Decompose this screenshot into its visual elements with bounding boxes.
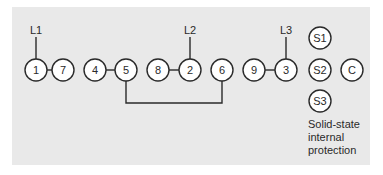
lead-label-l2: L2 xyxy=(184,24,196,36)
terminal-3: 3 xyxy=(275,59,297,81)
svg-text:3: 3 xyxy=(283,64,289,76)
svg-text:8: 8 xyxy=(155,64,161,76)
svg-text:S3: S3 xyxy=(313,95,326,107)
note-line-3: protection xyxy=(308,144,360,157)
lead-label-l3: L3 xyxy=(280,24,292,36)
terminal-s1: S1 xyxy=(309,27,331,49)
svg-text:S2: S2 xyxy=(313,64,326,76)
svg-text:C: C xyxy=(348,64,356,76)
svg-text:9: 9 xyxy=(251,64,257,76)
terminal-1: 1 xyxy=(25,59,47,81)
protection-note: Solid-state internal protection xyxy=(308,118,360,157)
terminal-4: 4 xyxy=(84,59,106,81)
terminal-9: 9 xyxy=(243,59,265,81)
lead-label-l1: L1 xyxy=(30,24,42,36)
svg-text:4: 4 xyxy=(92,64,98,76)
terminal-8: 8 xyxy=(147,59,169,81)
terminal-7: 7 xyxy=(52,59,74,81)
note-line-1: Solid-state xyxy=(308,118,360,131)
terminal-s3: S3 xyxy=(309,90,331,112)
svg-text:6: 6 xyxy=(219,64,225,76)
terminal-c: C xyxy=(341,59,363,81)
svg-text:7: 7 xyxy=(60,64,66,76)
svg-text:S1: S1 xyxy=(313,32,326,44)
connection-5-6 xyxy=(126,81,222,103)
terminal-6: 6 xyxy=(211,59,233,81)
terminal-2: 2 xyxy=(179,59,201,81)
svg-text:2: 2 xyxy=(187,64,193,76)
terminal-s2: S2 xyxy=(309,59,331,81)
note-line-2: internal xyxy=(308,131,360,144)
terminal-5: 5 xyxy=(115,59,137,81)
svg-text:5: 5 xyxy=(123,64,129,76)
svg-text:1: 1 xyxy=(33,64,39,76)
